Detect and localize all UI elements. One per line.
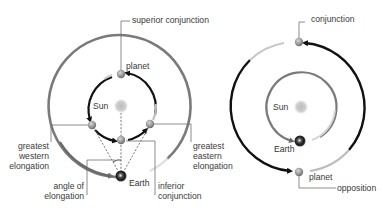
planet-orbit-right-fade bbox=[153, 104, 156, 120]
planet-label: planet bbox=[309, 172, 333, 182]
earth-label: Earth bbox=[274, 144, 295, 154]
earth-orbit-arrow bbox=[60, 142, 111, 176]
sun bbox=[113, 98, 129, 114]
greatest-eastern-elongation-label: greatest eastern elongation bbox=[193, 141, 233, 171]
svg-text:elongation: elongation bbox=[44, 191, 84, 201]
planet-orbit-bottom-right-arc bbox=[128, 130, 146, 140]
sun-label: Sun bbox=[273, 102, 289, 112]
planet-orbit-left-arc bbox=[231, 60, 290, 171]
angle-of-elongation-label: angle of elongation bbox=[44, 181, 84, 201]
svg-text:greatest: greatest bbox=[18, 141, 50, 151]
leader-conjunction bbox=[299, 22, 305, 38]
superior-conjunction-label: superior conjunction bbox=[132, 15, 209, 25]
planet-greatest-eastern-elongation bbox=[146, 120, 154, 128]
planet-inferior-conjunction bbox=[117, 136, 125, 144]
planet-superior-conjunction bbox=[117, 70, 125, 78]
planet-orbit-top-fade bbox=[250, 43, 284, 60]
planet-greatest-western-elongation bbox=[88, 121, 96, 129]
sightline-east bbox=[121, 125, 150, 176]
svg-text:greatest: greatest bbox=[193, 141, 225, 151]
planet-orbit-bottom-left-arc bbox=[95, 130, 115, 141]
svg-text:inferior: inferior bbox=[158, 181, 184, 191]
earth bbox=[116, 171, 127, 182]
earth bbox=[295, 136, 306, 147]
conjunction-label: conjunction bbox=[311, 14, 355, 24]
right-diagram-superior-planet: Sun Earth planet conjunction opposition bbox=[231, 14, 377, 193]
planet-orbit-bottom-fade bbox=[310, 150, 349, 171]
sun bbox=[293, 99, 309, 115]
planet-orbit-left-arc bbox=[89, 77, 112, 120]
svg-text:western: western bbox=[18, 151, 49, 161]
svg-text:angle of: angle of bbox=[53, 181, 84, 191]
planetary-configurations-diagram: Sun Earth planet superior conjunction gr… bbox=[0, 0, 386, 210]
left-diagram-inferior-planet: Sun Earth planet superior conjunction gr… bbox=[9, 15, 233, 201]
inferior-conjunction-label: inferior conjunction bbox=[158, 181, 202, 201]
opposition-label: opposition bbox=[337, 183, 376, 193]
svg-text:eastern: eastern bbox=[193, 151, 222, 161]
planet-conjunction bbox=[295, 38, 303, 46]
sun-label: Sun bbox=[93, 101, 109, 111]
greatest-western-elongation-label: greatest western elongation bbox=[9, 141, 49, 171]
svg-text:elongation: elongation bbox=[9, 161, 49, 171]
planet-orbit-right-arc bbox=[127, 73, 156, 115]
planet-label: planet bbox=[126, 61, 150, 71]
svg-text:conjunction: conjunction bbox=[158, 191, 202, 201]
earth-orbit-fade bbox=[150, 158, 168, 171]
svg-text:elongation: elongation bbox=[193, 161, 233, 171]
earth-label: Earth bbox=[129, 178, 150, 188]
planet-opposition bbox=[295, 168, 303, 176]
